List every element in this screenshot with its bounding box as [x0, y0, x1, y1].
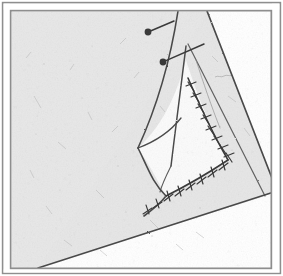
figure-root: Folded paper sheet with curved triangula… [0, 0, 283, 276]
leader-dot-upper [145, 29, 152, 36]
leader-dot-lower [160, 59, 167, 66]
folded-paper-figure [0, 0, 283, 276]
